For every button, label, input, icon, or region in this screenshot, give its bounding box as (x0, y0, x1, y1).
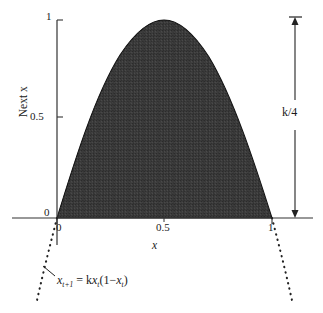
x-tick-label-0point5: 0.5 (156, 222, 170, 233)
equation-close-paren: ) (124, 273, 128, 287)
equation-x3: x (116, 273, 121, 287)
y-tick-label-0: 0 (44, 207, 50, 218)
dotted-curve-right (272, 218, 293, 305)
dotted-curve-left (36, 218, 57, 305)
equation-open-paren: (1− (99, 273, 116, 287)
y-tick-label-0point5: 0.5 (30, 111, 44, 122)
logistic-equation-label: xt+1 = kxt(1−xt) (57, 274, 128, 286)
y-axis-title: Next x (18, 74, 30, 130)
y-tick-label-1: 1 (46, 11, 52, 22)
logistic-map-figure: Next x x 1 0.5 0 0 0.5 1 k/4 xt+1 = kxt(… (0, 0, 323, 313)
k-over-4-label: k/4 (282, 106, 297, 118)
equation-equals-k: = k (73, 273, 92, 287)
x-tick-label-1: 1 (268, 222, 274, 233)
y-axis-title-text: Next x (17, 86, 29, 117)
plot-canvas (0, 0, 323, 313)
x-axis-title: x (152, 240, 157, 252)
logistic-curve-area (57, 20, 272, 218)
equation-leader-line (43, 266, 55, 276)
equation-sub-t-b: t (122, 280, 124, 289)
x-tick-label-0: 0 (56, 222, 62, 233)
equation-sub-t-plus-1: t+1 (62, 280, 73, 289)
